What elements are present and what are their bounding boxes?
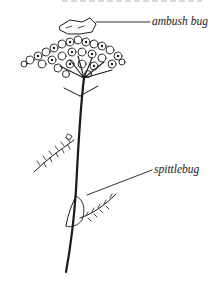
spittlebug-leader-line <box>87 170 152 195</box>
main-stem <box>66 78 84 272</box>
label-ambush-bug: ambush bug <box>152 16 208 28</box>
label-spittlebug: spittlebug <box>154 164 199 176</box>
ambush-bug-drawing <box>60 18 96 34</box>
yarrow-plant-illustration <box>0 0 224 281</box>
